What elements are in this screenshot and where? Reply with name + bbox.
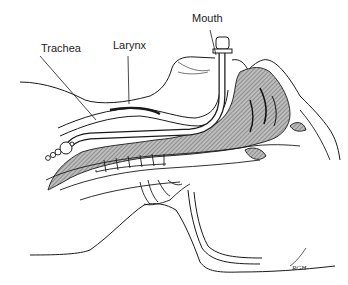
label-larynx: Larynx (113, 39, 146, 51)
label-mouth: Mouth (192, 12, 223, 24)
neck-outline (30, 190, 335, 272)
label-trachea: Trachea (41, 42, 81, 54)
pharynx-tissue (48, 68, 290, 191)
hyoid-structure (140, 180, 190, 205)
artist-signature: RGH (292, 264, 306, 272)
